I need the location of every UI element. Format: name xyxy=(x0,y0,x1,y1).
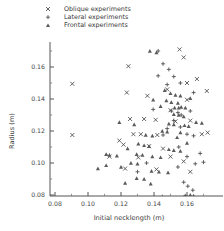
legend-label: Lateral experiments xyxy=(64,13,129,21)
data-point xyxy=(167,122,171,126)
data-point xyxy=(192,91,196,95)
data-point xyxy=(132,123,136,127)
legend-marker xyxy=(46,23,50,27)
x-axis-title: Initial necklength (m) xyxy=(94,214,165,222)
data-point xyxy=(126,64,130,68)
data-point xyxy=(185,155,189,159)
data-point xyxy=(185,132,189,136)
data-point xyxy=(119,165,123,169)
y-axis-title: Radius (m) xyxy=(8,113,16,149)
data-point xyxy=(104,152,108,156)
y-tick-label: 0.12 xyxy=(31,127,45,134)
data-point xyxy=(177,145,181,149)
data-point xyxy=(115,154,119,158)
data-point xyxy=(123,181,127,185)
data-point xyxy=(169,91,173,95)
data-point xyxy=(150,169,154,173)
data-point xyxy=(159,104,163,108)
data-point xyxy=(182,55,186,59)
data-point xyxy=(154,167,158,171)
data-point xyxy=(187,124,191,128)
data-point xyxy=(135,152,139,156)
x-tick-label: 0.14 xyxy=(147,200,161,207)
data-point xyxy=(176,111,180,115)
data-point xyxy=(169,100,173,104)
data-point xyxy=(161,62,165,66)
data-point xyxy=(167,67,171,71)
y-tick-label: 0.08 xyxy=(31,191,45,198)
data-point xyxy=(200,121,204,125)
chart-svg: Oblique experimentsLateral experimentsFr… xyxy=(0,0,224,231)
data-point xyxy=(117,139,121,143)
data-point xyxy=(165,83,169,87)
data-point xyxy=(150,155,154,159)
data-point xyxy=(198,151,202,155)
data-point xyxy=(179,105,183,109)
x-tick-label: 0.08 xyxy=(48,200,62,207)
data-point xyxy=(70,133,74,137)
data-point xyxy=(161,133,165,137)
data-point xyxy=(183,123,187,127)
data-point xyxy=(206,131,210,135)
y-tick-label: 0.10 xyxy=(31,159,45,166)
data-point xyxy=(188,170,192,174)
chart-legend: Oblique experimentsLateral experimentsFr… xyxy=(46,5,131,29)
data-point xyxy=(145,161,149,165)
data-point xyxy=(193,162,197,166)
data-point xyxy=(117,120,121,124)
data-point xyxy=(142,143,146,147)
data-point xyxy=(185,81,189,85)
data-point xyxy=(166,171,170,175)
data-point xyxy=(135,176,139,180)
data-point xyxy=(178,131,182,135)
scatter-plot-figure: Oblique experimentsLateral experimentsFr… xyxy=(0,0,224,231)
data-point xyxy=(160,129,164,133)
data-point xyxy=(172,75,176,79)
data-point xyxy=(192,134,196,138)
data-point xyxy=(151,107,155,111)
data-point xyxy=(186,184,190,188)
data-point xyxy=(150,134,154,138)
data-point xyxy=(142,177,146,181)
data-point xyxy=(149,182,153,186)
data-point xyxy=(173,106,177,110)
legend-marker xyxy=(46,7,50,11)
data-point xyxy=(139,132,143,136)
data-point xyxy=(148,49,152,53)
data-point xyxy=(183,106,187,110)
data-point xyxy=(144,133,148,137)
data-point xyxy=(172,112,176,116)
data-point xyxy=(155,133,159,137)
legend-marker xyxy=(46,15,50,19)
data-point xyxy=(151,98,155,102)
data-point xyxy=(96,167,100,171)
data-point xyxy=(188,119,192,123)
data-point xyxy=(178,149,182,153)
data-point xyxy=(164,99,168,103)
data-point xyxy=(136,162,140,166)
data-point xyxy=(173,93,177,97)
data-point xyxy=(167,147,171,151)
data-point xyxy=(145,94,149,98)
data-point xyxy=(178,125,182,129)
data-point xyxy=(175,135,179,139)
data-point xyxy=(176,165,180,169)
data-point xyxy=(194,120,198,124)
data-point xyxy=(136,142,140,146)
data-point xyxy=(156,74,160,78)
data-point xyxy=(176,101,180,105)
legend-label: Oblique experiments xyxy=(64,5,131,13)
data-point xyxy=(169,155,173,159)
data-point xyxy=(129,161,133,165)
data-point xyxy=(70,82,74,86)
data-point xyxy=(178,47,182,51)
chart-axes xyxy=(50,42,223,196)
data-point xyxy=(191,188,195,192)
data-point xyxy=(136,170,140,174)
data-point xyxy=(200,132,204,136)
data-point xyxy=(178,94,182,98)
data-point xyxy=(154,118,158,122)
data-point xyxy=(121,143,125,147)
data-point xyxy=(182,180,186,184)
x-tick-label: 0.10 xyxy=(81,200,95,207)
